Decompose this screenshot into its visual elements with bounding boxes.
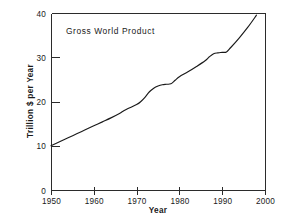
y-tick-label-30: 30 xyxy=(36,54,46,63)
x-tick-label-2000: 2000 xyxy=(256,197,275,206)
y-tick-label-0: 0 xyxy=(41,187,46,196)
y-axis-title: Trillion $ per Year xyxy=(26,64,35,138)
y-tick-label-20: 20 xyxy=(36,98,46,107)
chart-title: Gross World Product xyxy=(66,26,155,36)
gross-world-product-line-chart: 40 30 20 10 0 1950 1960 1970 1980 1990 2… xyxy=(0,0,281,216)
x-tick-label-1960: 1960 xyxy=(85,197,104,206)
x-tick-label-1970: 1970 xyxy=(128,197,147,206)
x-tick-label-1990: 1990 xyxy=(213,197,232,206)
y-tick-label-40: 40 xyxy=(36,10,46,19)
x-axis-title: Year xyxy=(149,206,168,215)
chart-container: 40 30 20 10 0 1950 1960 1970 1980 1990 2… xyxy=(0,0,281,216)
x-tick-label-1950: 1950 xyxy=(42,197,61,206)
y-tick-label-10: 10 xyxy=(36,142,46,151)
x-tick-label-1980: 1980 xyxy=(170,197,189,206)
